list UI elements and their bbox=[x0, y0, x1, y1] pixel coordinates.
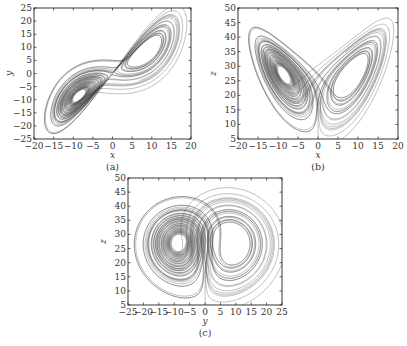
chart-c-yz-projection: −25−20−15−10−505101520255101520253035404… bbox=[0, 0, 407, 346]
subfigure-caption: (c) bbox=[199, 327, 212, 338]
y-tick-label: 20 bbox=[115, 258, 127, 268]
x-tick-label: −5 bbox=[183, 307, 197, 317]
y-tick-label: 35 bbox=[115, 215, 127, 225]
x-tick-label: 15 bbox=[245, 307, 257, 317]
y-tick-label: 40 bbox=[115, 201, 127, 211]
y-tick-label: 30 bbox=[115, 229, 127, 239]
x-tick-label: −10 bbox=[165, 307, 184, 317]
y-axis-label: z bbox=[98, 239, 108, 245]
y-tick-label: 5 bbox=[120, 300, 126, 310]
y-tick-label: 25 bbox=[115, 244, 127, 254]
attractor-trajectory bbox=[134, 188, 285, 311]
y-tick-label: 50 bbox=[115, 173, 127, 183]
y-tick-label: 10 bbox=[115, 286, 127, 296]
y-tick-label: 15 bbox=[115, 272, 127, 282]
x-axis-label: y bbox=[201, 316, 208, 326]
x-tick-label: 10 bbox=[230, 307, 242, 317]
x-tick-label: 5 bbox=[218, 307, 224, 317]
y-tick-label: 45 bbox=[115, 187, 127, 197]
x-tick-label: 20 bbox=[261, 307, 273, 317]
x-tick-label: 25 bbox=[276, 307, 288, 317]
